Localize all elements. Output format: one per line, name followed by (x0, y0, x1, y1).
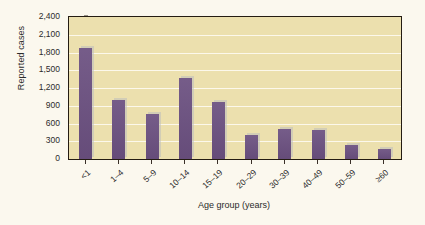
x-axis-tick-labels: <11–45–910–1415–1920–2930–3940–4950–59≥6… (68, 166, 400, 200)
y-tick-label: 900 (20, 100, 64, 110)
x-tick-label: 30–39 (259, 167, 291, 197)
x-tick-mark (383, 160, 384, 164)
bar (345, 145, 358, 159)
y-tick-label: 600 (20, 118, 64, 128)
y-tick-label: 2,400 (20, 11, 64, 21)
x-tick-label: 1–4 (93, 167, 125, 197)
plot-area (68, 16, 402, 160)
y-tick-label: 2,100 (20, 29, 64, 39)
y-tick-label: 1,500 (20, 64, 64, 74)
texture-band (69, 17, 401, 20)
x-axis-tick-marks (68, 160, 400, 165)
x-tick-mark (85, 160, 86, 164)
x-tick-mark (118, 160, 119, 164)
x-tick-mark (217, 160, 218, 164)
y-tick-label: 0 (20, 153, 64, 163)
x-tick-label: <1 (60, 167, 92, 197)
bar (278, 129, 291, 159)
bar-chart-figure: Reported cases 03006009001,2001,5001,800… (0, 0, 425, 225)
texture-band (69, 47, 401, 50)
texture-band (69, 29, 401, 32)
texture-band (69, 89, 401, 92)
texture-band (69, 83, 401, 86)
texture-band (69, 41, 401, 44)
gridline (69, 53, 401, 54)
x-tick-label: 5–9 (126, 167, 158, 197)
x-tick-label: ≥60 (359, 167, 391, 197)
x-tick-mark (151, 160, 152, 164)
bar (312, 130, 325, 159)
texture-band (69, 77, 401, 80)
x-tick-mark (350, 160, 351, 164)
x-tick-mark (251, 160, 252, 164)
bar (245, 135, 258, 159)
x-axis-title: Age group (years) (68, 200, 400, 210)
x-tick-label: 20–29 (226, 167, 258, 197)
bar (179, 78, 192, 159)
texture-band (69, 23, 401, 26)
plot-inner (69, 17, 401, 159)
bar (146, 114, 159, 159)
y-tick-label: 300 (20, 135, 64, 145)
x-tick-mark (284, 160, 285, 164)
texture-band (69, 65, 401, 68)
x-tick-label: 40–49 (292, 167, 324, 197)
texture-band (69, 95, 401, 98)
texture-band (69, 71, 401, 74)
y-tick-label: 1,200 (20, 82, 64, 92)
y-tick-label: 1,800 (20, 47, 64, 57)
x-tick-mark (184, 160, 185, 164)
bar (112, 100, 125, 159)
y-axis-tick-labels: 03006009001,2001,5001,8002,1002,400 (20, 16, 64, 158)
gridline (69, 70, 401, 71)
gridline (69, 35, 401, 36)
x-tick-label: 50–59 (326, 167, 358, 197)
x-tick-label: 10–14 (160, 167, 192, 197)
bar (378, 149, 391, 159)
bar (212, 102, 225, 159)
texture-band (69, 59, 401, 62)
bar (79, 48, 92, 159)
gridline (69, 88, 401, 89)
x-tick-mark (317, 160, 318, 164)
x-tick-label: 15–19 (193, 167, 225, 197)
